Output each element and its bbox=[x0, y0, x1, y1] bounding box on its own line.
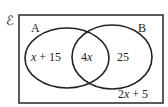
set-a-label: A bbox=[31, 22, 40, 34]
set-b-label: B bbox=[138, 22, 146, 34]
region-a-only: x + 15 bbox=[31, 51, 61, 63]
universal-set-symbol: ℰ bbox=[6, 15, 14, 27]
region-intersection: 4x bbox=[81, 51, 92, 63]
region-outside: 2x + 5 bbox=[118, 88, 148, 100]
region-b-only: 25 bbox=[117, 51, 129, 63]
